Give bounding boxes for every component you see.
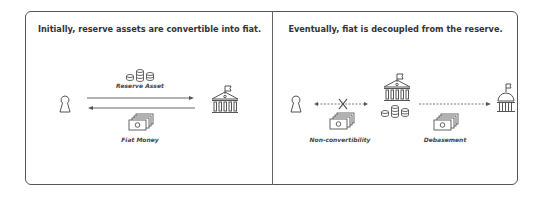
person-icon [58, 95, 72, 113]
banknotes-icon [126, 113, 156, 131]
person-icon [289, 95, 303, 113]
panel-2-title: Eventually, fiat is decoupled from the r… [273, 24, 518, 34]
debasement-label: Debasement [405, 136, 485, 143]
arrow-to-person [86, 105, 196, 111]
capitol-dome-icon [495, 82, 517, 114]
arrow-to-bank [86, 95, 196, 101]
fiat-money-label: Fiat Money [100, 136, 180, 143]
banknotes-icon [327, 112, 357, 130]
reserve-asset-label: Reserve Asset [100, 82, 180, 89]
coin-stack-icon [380, 104, 412, 118]
panel-divider [272, 11, 273, 185]
x-mark-icon [338, 98, 348, 110]
bank-building-icon [382, 71, 412, 103]
debasement-arrow [418, 100, 492, 108]
bank-building-icon [210, 83, 240, 115]
panel-1-title: Initially, reserve assets are convertibl… [27, 24, 272, 34]
coin-stack-icon [125, 68, 157, 82]
banknotes-icon [431, 113, 461, 131]
non-convertibility-label: Non-convertibility [300, 136, 380, 143]
